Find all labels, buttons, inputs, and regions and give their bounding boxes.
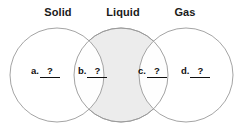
answer-label-a: a. (31, 66, 39, 76)
answer-blank-b[interactable]: b.? (78, 66, 107, 78)
answer-label-c: c. (138, 66, 146, 76)
answer-value-c[interactable]: ? (147, 66, 167, 78)
answer-blank-d[interactable]: d.? (181, 66, 210, 78)
answer-value-b[interactable]: ? (87, 66, 107, 78)
venn-circles-graphic (0, 0, 243, 124)
answer-value-d[interactable]: ? (190, 66, 210, 78)
answer-label-d: d. (181, 66, 189, 76)
venn-diagram-container: Solid Liquid Gas a.? b.? c.? d.? (0, 0, 243, 124)
answer-value-a[interactable]: ? (40, 66, 60, 78)
answer-label-b: b. (78, 66, 86, 76)
answer-blank-a[interactable]: a.? (31, 66, 60, 78)
answer-blank-c[interactable]: c.? (138, 66, 167, 78)
